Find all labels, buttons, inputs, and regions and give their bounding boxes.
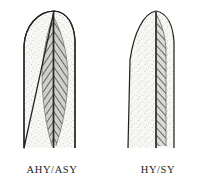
- feather-panel-hy-sy: HY/SY: [108, 0, 203, 188]
- feather-illustration-ahy-asy: [2, 0, 102, 160]
- feather-panel-ahy-asy: AHY/ASY: [2, 0, 102, 188]
- feather-illustration-hy-sy: [108, 0, 203, 160]
- feather-label-ahy-asy: AHY/ASY: [2, 164, 102, 175]
- inner-hatch-left-half-ahy: [2, 0, 102, 160]
- feather-label-hy-sy: HY/SY: [108, 164, 203, 175]
- feather-comparison-figure: AHY/ASY: [0, 0, 203, 188]
